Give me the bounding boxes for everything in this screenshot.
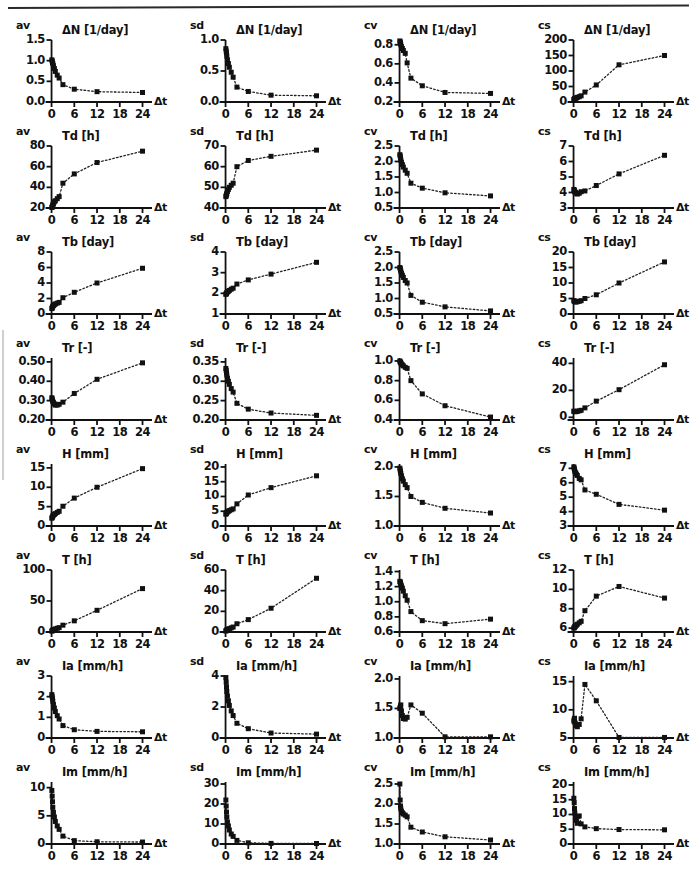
y-tick-label: 3 — [37, 670, 44, 681]
y-tick-label: 0.0 — [200, 96, 219, 107]
chart-panel: cvTr [-]0.40.60.81.006121824Δt — [348, 336, 522, 442]
x-tick-label: 12 — [85, 215, 109, 226]
y-tick-label: 70 — [204, 140, 219, 151]
y-tick-label: 15 — [30, 462, 45, 473]
y-tick-label: 6 — [559, 477, 566, 488]
x-tick-label: 18 — [282, 851, 306, 862]
x-tick-label: 18 — [108, 851, 132, 862]
x-tick-label: 12 — [433, 533, 457, 544]
x-tick-label: 18 — [282, 639, 306, 650]
x-tick-label: 6 — [62, 533, 86, 544]
x-tick-label: 18 — [108, 321, 132, 332]
y-tick-label: 10 — [552, 277, 567, 288]
x-tick-label: 24 — [653, 745, 677, 756]
chart-panel: cvH [mm]1.01.52.006121824Δt — [348, 442, 522, 548]
x-tick-label: 18 — [630, 639, 654, 650]
y-tick-label: 0.4 — [374, 77, 393, 88]
x-tick-label: 12 — [433, 851, 457, 862]
x-tick-label: 12 — [433, 639, 457, 650]
y-tick-label: 1.5 — [26, 34, 45, 45]
y-tick-label: 0 — [37, 626, 44, 637]
x-tick-label: 24 — [479, 427, 503, 438]
x-tick-label: 12 — [85, 427, 109, 438]
x-tick-label: 18 — [282, 427, 306, 438]
x-tick-label: 18 — [630, 427, 654, 438]
x-tick-label: 18 — [630, 321, 654, 332]
x-tick-label: 12 — [85, 639, 109, 650]
chart-panel: sdIm [mm/h]010203006121824Δt — [174, 760, 348, 866]
x-axis-label: Δt — [328, 520, 341, 531]
x-tick-label: 0 — [388, 109, 412, 120]
y-tick-label: 100 — [544, 65, 566, 76]
x-tick-label: 6 — [62, 427, 86, 438]
x-tick-label: 0 — [40, 321, 64, 332]
chart-panel: csTb [day]0510152006121824Δt — [522, 230, 696, 336]
y-tick-label: 5 — [559, 293, 566, 304]
x-tick-label: 12 — [433, 427, 457, 438]
x-tick-label: 24 — [305, 533, 329, 544]
y-tick-label: 1.5 — [374, 490, 393, 501]
y-tick-label: 0.5 — [374, 308, 393, 319]
x-axis-label: Δt — [328, 414, 341, 425]
x-tick-label: 6 — [62, 639, 86, 650]
chart-panel: sdTr [-]0.200.250.300.3506121824Δt — [174, 336, 348, 442]
x-tick-label: 0 — [388, 745, 412, 756]
x-tick-label: 24 — [305, 639, 329, 650]
chart-panel: avT [h]05010006121824Δt — [0, 548, 174, 654]
x-tick-label: 0 — [40, 533, 64, 544]
y-tick-label: 0 — [559, 308, 566, 319]
x-tick-label: 18 — [456, 533, 480, 544]
x-tick-label: 24 — [305, 745, 329, 756]
x-tick-label: 0 — [40, 109, 64, 120]
y-tick-label: 0.2 — [374, 96, 393, 107]
y-tick-label: 4 — [37, 277, 44, 288]
x-tick-label: 24 — [479, 533, 503, 544]
x-axis-label: Δt — [154, 626, 167, 637]
x-tick-label: 18 — [282, 533, 306, 544]
y-tick-label: 50 — [552, 81, 567, 92]
x-tick-label: 24 — [653, 321, 677, 332]
x-tick-label: 12 — [259, 639, 283, 650]
x-tick-label: 12 — [259, 215, 283, 226]
x-tick-label: 0 — [214, 851, 238, 862]
y-tick-label: 0 — [559, 96, 566, 107]
y-tick-label: 0.6 — [374, 394, 393, 405]
chart-panel: sdTd [h]4050607006121824Δt — [174, 124, 348, 230]
x-tick-label: 0 — [214, 321, 238, 332]
x-tick-label: 6 — [236, 851, 260, 862]
x-axis-label: Δt — [676, 520, 689, 531]
x-tick-label: 0 — [214, 639, 238, 650]
y-tick-label: 2.5 — [374, 246, 393, 257]
y-tick-label: 2 — [37, 691, 44, 702]
y-tick-label: 5 — [559, 491, 566, 502]
x-tick-label: 24 — [131, 215, 155, 226]
x-axis-label: Δt — [328, 202, 341, 213]
y-tick-label: 0.20 — [193, 414, 219, 425]
y-tick-label: 0.5 — [200, 65, 219, 76]
y-tick-label: 7 — [559, 140, 566, 151]
chart-panel: sdH [mm]0510152006121824Δt — [174, 442, 348, 548]
y-tick-label: 40 — [204, 585, 219, 596]
y-tick-label: 10 — [552, 704, 567, 715]
y-tick-label: 1.0 — [374, 520, 393, 531]
x-axis-label: Δt — [676, 202, 689, 213]
chart-panel: csIm [mm/h]0510152006121824Δt — [522, 760, 696, 866]
y-tick-label: 1.2 — [374, 581, 393, 592]
y-tick-label: 7 — [559, 462, 566, 473]
x-tick-label: 6 — [584, 639, 608, 650]
x-tick-label: 6 — [410, 745, 434, 756]
y-tick-label: 150 — [544, 50, 566, 61]
y-tick-label: 2 — [211, 287, 218, 298]
x-tick-label: 24 — [479, 745, 503, 756]
y-tick-label: 1 — [211, 308, 218, 319]
y-tick-label: 10 — [552, 583, 567, 594]
y-tick-label: 20 — [552, 246, 567, 257]
x-tick-label: 6 — [410, 215, 434, 226]
chart-panel: csTd [h]3456706121824Δt — [522, 124, 696, 230]
x-tick-label: 0 — [562, 851, 586, 862]
y-tick-label: 2.5 — [374, 140, 393, 151]
x-tick-label: 0 — [388, 533, 412, 544]
x-tick-label: 18 — [456, 215, 480, 226]
x-tick-label: 24 — [305, 321, 329, 332]
x-tick-label: 12 — [85, 533, 109, 544]
